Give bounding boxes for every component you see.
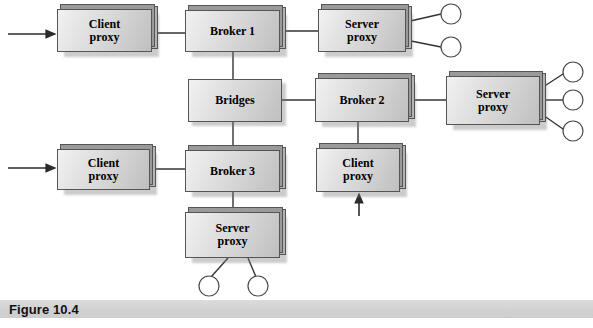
node-broker_1[interactable]: Broker 1: [185, 10, 280, 52]
endpoint-circle-obj_top_1[interactable]: [441, 4, 461, 24]
node-label-line1: Server: [345, 18, 379, 31]
node-client_proxy_mid[interactable]: Clientproxy: [316, 148, 400, 192]
node-label-line2: proxy: [89, 170, 119, 183]
endpoint-circle-obj_right_2[interactable]: [563, 90, 583, 110]
figure-canvas: ClientproxyBroker 1ServerproxyBridgesBro…: [0, 0, 593, 328]
node-broker_2[interactable]: Broker 2: [315, 78, 409, 122]
node-label-line1: Client: [89, 18, 120, 31]
figure-caption-bar: Figure 10.4: [0, 300, 593, 318]
node-label-line1: Client: [88, 157, 119, 170]
endpoint-circle-obj_bottom_1[interactable]: [199, 276, 219, 296]
node-label-line2: proxy: [478, 101, 508, 114]
node-bridges[interactable]: Bridges: [188, 79, 282, 122]
node-label-line1: Broker 1: [210, 25, 255, 38]
node-label-line1: Broker 2: [339, 94, 384, 107]
node-client_proxy_top[interactable]: Clientproxy: [57, 9, 152, 52]
node-label-line1: Server: [476, 88, 510, 101]
node-server_proxy_bottom[interactable]: Serverproxy: [185, 212, 280, 258]
node-server_proxy_top[interactable]: Serverproxy: [318, 9, 406, 52]
node-label-line1: Bridges: [215, 94, 254, 107]
endpoint-circle-obj_top_2[interactable]: [441, 37, 461, 57]
node-server_proxy_right[interactable]: Serverproxy: [446, 76, 540, 125]
figure-caption-text: Figure 10.4: [0, 302, 79, 317]
node-label-line2: proxy: [343, 170, 373, 183]
node-label-line2: proxy: [90, 31, 120, 44]
node-broker_3[interactable]: Broker 3: [185, 150, 280, 192]
node-label-line2: proxy: [218, 235, 248, 248]
endpoint-circle-obj_right_1[interactable]: [563, 62, 583, 82]
node-label-line2: proxy: [347, 31, 377, 44]
node-client_proxy_bottom[interactable]: Clientproxy: [57, 149, 150, 190]
node-label-line1: Broker 3: [210, 165, 255, 178]
endpoint-circle-obj_bottom_2[interactable]: [248, 276, 268, 296]
endpoint-circle-obj_right_3[interactable]: [563, 121, 583, 141]
